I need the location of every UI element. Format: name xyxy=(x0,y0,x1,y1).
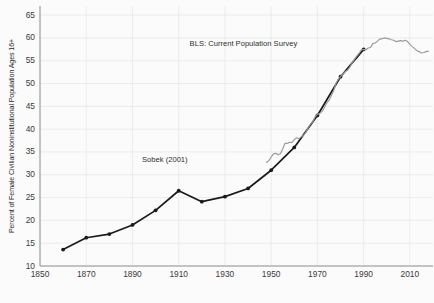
chart-annotation: BLS: Current Population Survey xyxy=(190,39,298,48)
data-point-marker xyxy=(131,223,135,227)
chart-container: Percent of Female Civilian Noninstitutio… xyxy=(0,0,434,303)
data-point-marker xyxy=(107,232,111,236)
data-point-marker xyxy=(292,146,296,150)
data-line-series-1 xyxy=(267,38,429,163)
data-point-marker xyxy=(154,208,158,212)
data-point-marker xyxy=(84,236,88,240)
data-line-series-0 xyxy=(63,49,364,249)
data-point-marker xyxy=(246,187,250,191)
data-point-marker xyxy=(61,248,65,252)
data-point-marker xyxy=(269,168,273,172)
data-point-marker xyxy=(200,200,204,204)
data-point-marker xyxy=(177,189,181,193)
chart-annotation: Sobek (2001) xyxy=(142,155,188,164)
data-point-marker xyxy=(223,195,227,199)
